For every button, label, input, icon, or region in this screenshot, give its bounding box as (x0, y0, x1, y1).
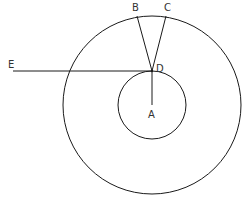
label-B: B (132, 2, 139, 13)
label-A: A (148, 109, 155, 120)
geometry-diagram: B C D E A (0, 0, 247, 208)
label-E: E (8, 59, 14, 70)
point-D-dot (151, 70, 153, 72)
label-C: C (164, 2, 171, 13)
segment-DB (137, 16, 152, 71)
label-D: D (156, 63, 164, 74)
